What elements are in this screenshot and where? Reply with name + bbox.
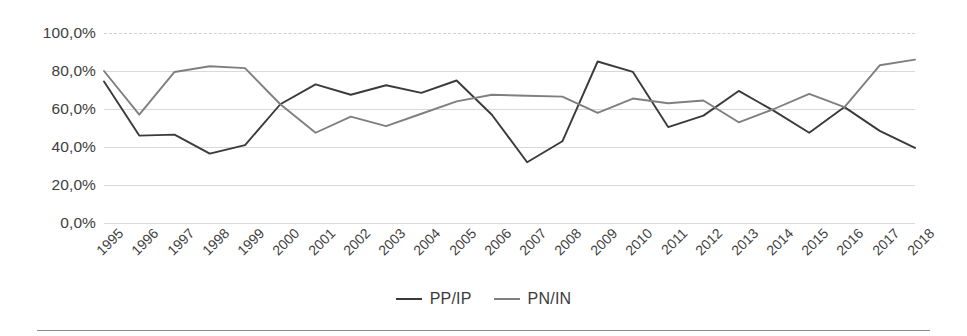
y-tick-label: 80,0% bbox=[0, 62, 96, 80]
x-tick-label: 2009 bbox=[587, 225, 620, 258]
x-tick-label: 2001 bbox=[305, 225, 338, 258]
x-tick-label: 2010 bbox=[622, 225, 655, 258]
legend-item[interactable]: PN/IN bbox=[494, 290, 572, 308]
x-tick-label: 2005 bbox=[446, 225, 479, 258]
x-tick-label: 1995 bbox=[93, 225, 126, 258]
legend-item[interactable]: PP/IP bbox=[396, 290, 472, 308]
y-tick-label: 0,0% bbox=[0, 214, 96, 232]
gridline-0 bbox=[104, 223, 915, 224]
x-tick-label: 2014 bbox=[763, 225, 796, 258]
series-line-pp-ip bbox=[104, 62, 915, 163]
x-tick-label: 2011 bbox=[658, 225, 691, 258]
legend-line-swatch bbox=[396, 298, 422, 300]
x-tick-label: 1996 bbox=[128, 225, 161, 258]
x-tick-label: 2016 bbox=[833, 225, 866, 258]
x-tick-label: 2000 bbox=[269, 225, 302, 258]
plot-area bbox=[104, 33, 915, 223]
x-tick-label: 1997 bbox=[163, 225, 196, 258]
x-axis: 1995199619971998199920002001200220032004… bbox=[104, 225, 915, 295]
x-tick-label: 1998 bbox=[199, 225, 232, 258]
x-tick-label: 2015 bbox=[798, 225, 831, 258]
x-tick-label: 2018 bbox=[904, 225, 937, 258]
legend-label: PP/IP bbox=[430, 290, 472, 308]
y-tick-label: 100,0% bbox=[0, 24, 96, 42]
x-tick-label: 2002 bbox=[340, 225, 373, 258]
x-tick-label: 2007 bbox=[516, 225, 549, 258]
y-tick-label: 20,0% bbox=[0, 176, 96, 194]
y-tick-label: 60,0% bbox=[0, 100, 96, 118]
bottom-divider bbox=[37, 330, 930, 331]
legend-label: PN/IN bbox=[528, 290, 572, 308]
x-tick-label: 1999 bbox=[234, 225, 267, 258]
chart-figure: 0,0%20,0%40,0%60,0%80,0%100,0% 199519961… bbox=[0, 0, 967, 336]
chart-lines bbox=[104, 33, 915, 223]
x-tick-label: 2004 bbox=[410, 225, 443, 258]
legend-line-swatch bbox=[494, 298, 520, 300]
y-tick-label: 40,0% bbox=[0, 138, 96, 156]
y-axis: 0,0%20,0%40,0%60,0%80,0%100,0% bbox=[0, 0, 96, 336]
chart-legend: PP/IPPN/IN bbox=[0, 290, 967, 308]
x-tick-label: 2003 bbox=[375, 225, 408, 258]
x-tick-label: 2008 bbox=[551, 225, 584, 258]
series-line-pn-in bbox=[104, 60, 915, 133]
x-tick-label: 2006 bbox=[481, 225, 514, 258]
x-tick-label: 2017 bbox=[869, 225, 902, 258]
x-tick-label: 2013 bbox=[728, 225, 761, 258]
x-tick-label: 2012 bbox=[692, 225, 725, 258]
